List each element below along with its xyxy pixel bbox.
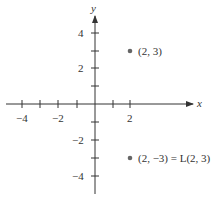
point-2-3 (128, 49, 133, 54)
y-tick-label: 4 (78, 27, 84, 39)
x-tick-label: −2 (52, 112, 64, 124)
point-label-2-3: (2, 3) (138, 45, 162, 58)
y-axis-label: y (90, 2, 96, 14)
y-tick-label: 2 (78, 62, 84, 74)
point-2-neg3 (128, 156, 133, 161)
x-tick-label: 2 (127, 112, 133, 124)
y-tick-label: −4 (72, 170, 84, 182)
coordinate-plane: x y −4 −2 2 4 2 −2 −4 (2, 3) (2, −3) = L… (0, 0, 211, 198)
x-axis-label: x (196, 97, 202, 109)
x-tick-label: −4 (16, 112, 28, 124)
y-tick-label: −2 (72, 134, 84, 146)
point-label-2-neg3: (2, −3) = L(2, 3) (138, 152, 211, 165)
